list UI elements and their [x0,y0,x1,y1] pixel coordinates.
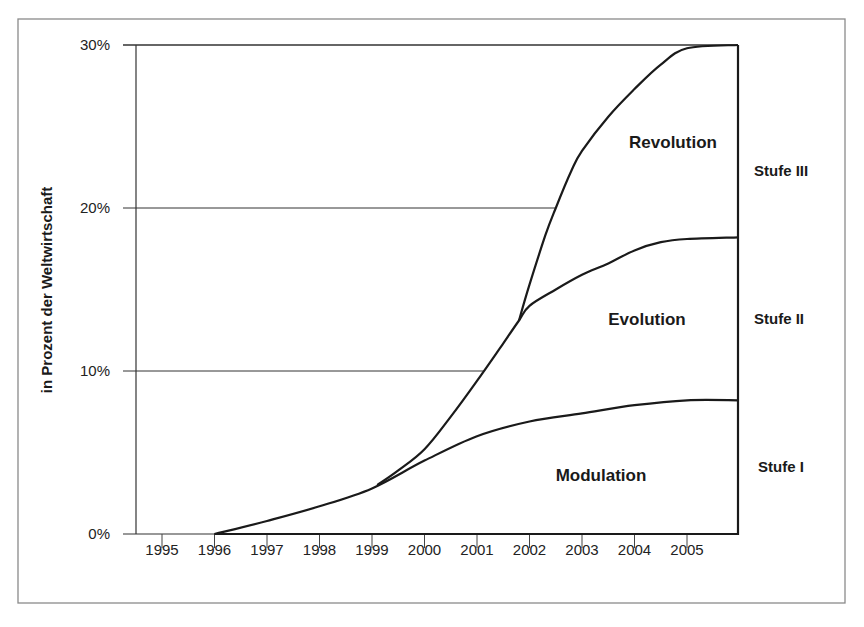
stage-label-2: Stufe II [754,310,804,327]
y-axis-title: in Prozent der Weltwirtschaft [38,187,55,393]
y-tick-label-0: 0% [88,525,110,542]
y-tick-label-10: 10% [80,362,110,379]
chart-frame [18,19,845,603]
x-tick-label-1995: 1995 [145,541,178,558]
curve-evolution [377,237,738,485]
x-tick-label-2004: 2004 [618,541,651,558]
y-tick-label-30: 30% [80,36,110,53]
region-label-modulation: Modulation [556,466,647,485]
curve-modulation [215,400,739,534]
series-curves [215,45,739,534]
x-tick-label-2005: 2005 [670,541,703,558]
x-tick-label-1999: 1999 [355,541,388,558]
region-label-revolution: Revolution [629,133,717,152]
stage-label-1: Stufe I [758,458,804,475]
x-tick-label-1996: 1996 [198,541,231,558]
stage-label-3: Stufe III [754,162,808,179]
y-tick-label-20: 20% [80,199,110,216]
x-tick-label-2002: 2002 [513,541,546,558]
x-tick-label-1998: 1998 [303,541,336,558]
region-label-evolution: Evolution [608,310,685,329]
x-tick-label-1997: 1997 [250,541,283,558]
x-tick-label-2003: 2003 [565,541,598,558]
curve-revolution [519,45,738,321]
x-tick-label-2000: 2000 [408,541,441,558]
chart: 0% 10% 20% 30% in Prozent der Weltwirtsc… [0,0,864,627]
x-tick-label-2001: 2001 [460,541,493,558]
